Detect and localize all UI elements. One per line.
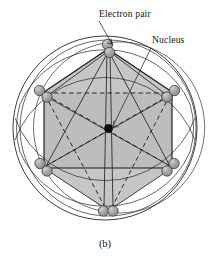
- electron-sphere: [104, 47, 114, 57]
- electron-pair-label: Electron pair: [99, 8, 151, 19]
- nucleus-group: [104, 124, 112, 132]
- figure-container: Electron pair Nucleus (b): [0, 0, 210, 259]
- electron-sphere: [42, 166, 52, 176]
- electron-sphere: [162, 166, 172, 176]
- nucleus-dot: [104, 124, 112, 132]
- electron-pair-polyhedron-diagram: Electron pair Nucleus (b): [0, 0, 210, 259]
- electron-sphere: [108, 206, 118, 216]
- nucleus-label: Nucleus: [152, 34, 185, 45]
- electron-sphere: [98, 206, 108, 216]
- electron-sphere: [162, 92, 172, 102]
- figure-caption: (b): [99, 238, 112, 250]
- electron-sphere: [42, 92, 52, 102]
